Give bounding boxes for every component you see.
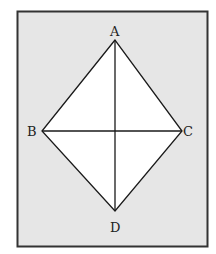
vertex-label-c: C	[183, 124, 193, 139]
vertex-label-b: B	[27, 124, 37, 139]
rhombus-diagram: A B C D	[0, 0, 216, 254]
vertex-label-d: D	[110, 220, 120, 235]
vertex-label-a: A	[109, 24, 120, 39]
